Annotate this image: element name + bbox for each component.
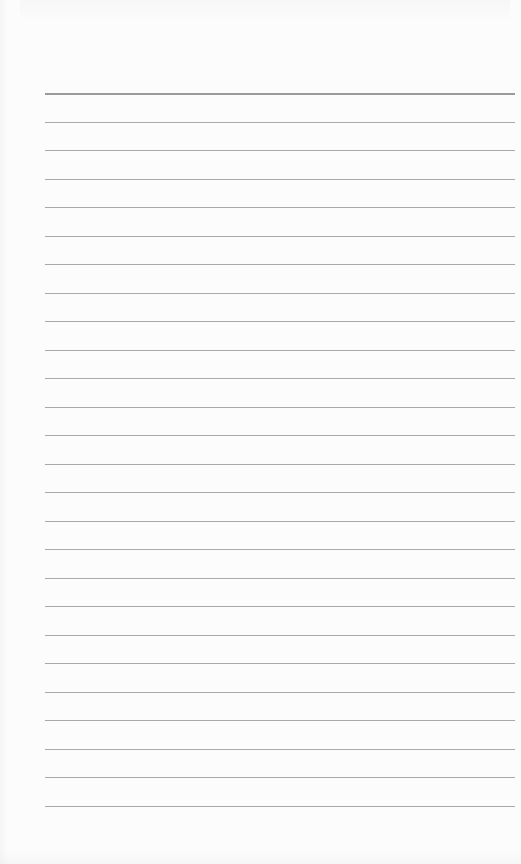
ruled-line [45,492,515,493]
ruled-line [45,464,515,465]
ruled-line [45,150,515,151]
ruled-line [45,293,515,294]
ruled-line [45,806,515,807]
ruled-line [45,749,515,750]
ruled-line [45,635,515,636]
ruled-line [45,378,515,379]
ruled-line [45,93,515,95]
bottom-bleed-through [0,850,521,864]
ruled-line [45,321,515,322]
ruled-line [45,606,515,607]
ruled-line [45,720,515,721]
ruled-line [45,236,515,237]
ruled-line [45,521,515,522]
ruled-line [45,407,515,408]
ruled-line [45,264,515,265]
ruled-line [45,207,515,208]
ruled-line [45,663,515,664]
top-bleed-through [20,0,510,22]
ruled-line [45,578,515,579]
page-edge-shadow [0,0,8,864]
ruled-line [45,179,515,180]
ruled-line [45,435,515,436]
ruled-line [45,122,515,123]
ruled-line [45,777,515,778]
ruled-line [45,350,515,351]
ruled-page [0,0,521,864]
ruled-line [45,692,515,693]
ruled-line [45,549,515,550]
